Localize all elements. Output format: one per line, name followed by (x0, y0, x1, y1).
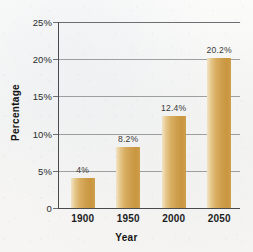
y-axis-label: 20% (33, 54, 52, 65)
y-axis-label: 15% (33, 91, 52, 102)
y-axis-label: 5% (38, 165, 52, 176)
y-axis-title: Percentage (10, 68, 21, 158)
x-axis-label-2000: 2000 (162, 213, 185, 224)
y-axis-label: 10% (33, 128, 52, 139)
x-axis-label-1950: 1950 (117, 213, 140, 224)
x-axis-title: Year (0, 232, 253, 243)
bar-value-label-1950: 8.2% (118, 134, 138, 144)
y-axis-label: 0 (47, 203, 52, 214)
bar-value-label-2000: 12.4% (161, 103, 186, 113)
y-axis-tick-labels: 05%10%15%20%25% (0, 0, 52, 252)
bar-2050[interactable] (207, 58, 231, 208)
x-axis-label-2050: 2050 (208, 213, 231, 224)
bar-1900[interactable] (71, 178, 95, 208)
bar-value-label-2050: 20.2% (207, 45, 232, 55)
bar-2000[interactable] (162, 116, 186, 208)
bar-value-label-1900: 4% (76, 165, 89, 175)
chart-page: 05%10%15%20%25% 4%8.2%12.4%20.2% 1900195… (0, 0, 253, 252)
bar-series: 4%8.2%12.4%20.2% (58, 22, 240, 208)
y-axis-label: 25% (33, 17, 52, 28)
x-axis-line (58, 208, 240, 209)
x-axis-label-1900: 1900 (71, 213, 94, 224)
x-axis-tick-labels: 1900195020002050 (58, 213, 240, 229)
bar-1950[interactable] (116, 147, 140, 208)
